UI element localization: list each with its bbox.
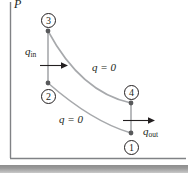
q-in-symbol: q [25,45,31,57]
state-label-1: 1 [124,140,139,155]
q-in-arrow [40,62,68,68]
process-1-2-curve [48,83,131,133]
state-point-1-marker [129,131,134,136]
diagram-canvas [0,0,188,174]
state-label-4: 4 [124,85,139,100]
process-3-4-curve [48,31,131,103]
q-out-label: qout [143,126,158,137]
q-out-subscript: out [149,130,159,139]
state-point-3-marker [46,29,51,34]
pv-diagram-figure: P 3 2 4 1 qin qout q = 0 q = 0 [0,0,188,174]
q-out-arrow [123,117,155,123]
q-in-label: qin [25,46,36,57]
q-in-subscript: in [31,50,37,59]
q-out-symbol: q [143,125,149,137]
process-3-4-label: q = 0 [92,62,116,73]
process-1-2-label: q = 0 [59,114,83,125]
state-point-4-marker [129,101,134,106]
state-label-3: 3 [41,13,56,28]
state-label-2: 2 [41,89,56,104]
bottom-bar [0,165,188,173]
state-point-2-marker [46,81,51,86]
y-axis-label: P [14,0,21,10]
